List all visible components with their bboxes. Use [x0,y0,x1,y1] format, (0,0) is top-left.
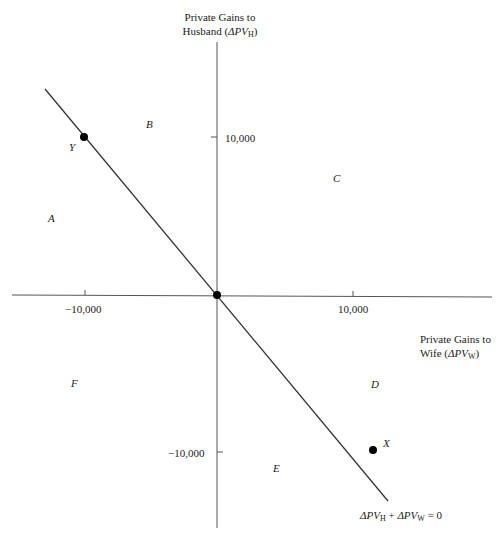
y-tick-label-pos: 10,000 [225,131,255,145]
x-tick-label-neg: −10,000 [65,302,101,316]
region-b-label: B [146,117,153,131]
zero-sum-equation: ΔPVH + ΔPVW = 0 [360,508,442,526]
x-tick-label-pos: 10,000 [338,302,368,316]
region-a-label: A [48,211,55,225]
point-x-marker [369,446,377,454]
region-c-label: C [333,171,340,185]
point-y-marker [80,133,88,141]
point-y-label: Y [69,140,75,154]
y-axis-title: Private Gains to Husband (ΔPVH) [160,10,280,42]
x-axis [12,295,492,297]
x-axis-title: Private Gains to Wife (ΔPVW) [420,332,491,364]
region-f-label: F [71,376,78,390]
point-x-label: X [383,436,390,450]
region-d-label: D [371,377,379,391]
y-tick-label-neg: −10,000 [168,446,204,460]
chart-canvas [0,0,502,533]
origin-marker [213,291,221,299]
region-e-label: E [273,461,280,475]
